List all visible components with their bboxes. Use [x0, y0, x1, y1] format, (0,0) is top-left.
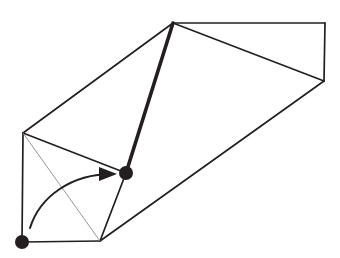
figure-canvas: [0, 0, 340, 258]
diagram-background: [0, 0, 340, 258]
edge-left-upper-to-bottom-left: [22, 133, 23, 242]
vertex-marker-bottom-left: [15, 235, 29, 249]
polyhedron-diagram: [0, 0, 340, 258]
edge-top-right-to-right: [324, 23, 325, 81]
edge-bottom-left-to-bottom-mid: [22, 241, 100, 242]
vertex-marker-center: [119, 166, 133, 180]
